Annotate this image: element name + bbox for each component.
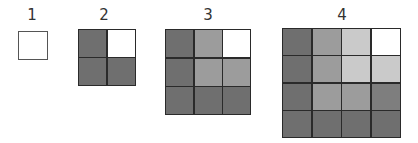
cell-dark [283, 111, 311, 137]
cell-dark [79, 30, 106, 57]
cell-dark [223, 87, 250, 114]
cell-dark [108, 58, 135, 85]
cell-mid [313, 56, 341, 82]
square-3 [165, 29, 251, 115]
cell-mid [223, 59, 250, 86]
label-2: 2 [94, 8, 114, 23]
cell-dark [283, 29, 311, 55]
cell-mid [313, 29, 341, 55]
square-1 [18, 31, 48, 60]
cell-light [342, 29, 370, 55]
cell-dark [283, 56, 311, 82]
cell-mid [313, 84, 341, 110]
cell-dark [313, 111, 341, 137]
cell-white [223, 30, 250, 57]
cell-dark [195, 87, 222, 114]
cell-dark [166, 30, 193, 57]
cell-dark [372, 111, 400, 137]
cell-dark [342, 111, 370, 137]
cell-dark [79, 58, 106, 85]
cell-light [372, 56, 400, 82]
square-2 [78, 29, 136, 86]
cell-mid [195, 59, 222, 86]
cell-dark [166, 59, 193, 86]
cell-darkmid [372, 84, 400, 110]
label-3: 3 [198, 8, 218, 23]
cell-white [108, 30, 135, 57]
cell-dark [283, 84, 311, 110]
cell-mid [342, 84, 370, 110]
label-4: 4 [332, 8, 352, 23]
cell-dark [166, 87, 193, 114]
cell-white [372, 29, 400, 55]
cell-light [342, 56, 370, 82]
label-1: 1 [22, 8, 42, 23]
square-4 [282, 28, 401, 138]
cell-mid [195, 30, 222, 57]
